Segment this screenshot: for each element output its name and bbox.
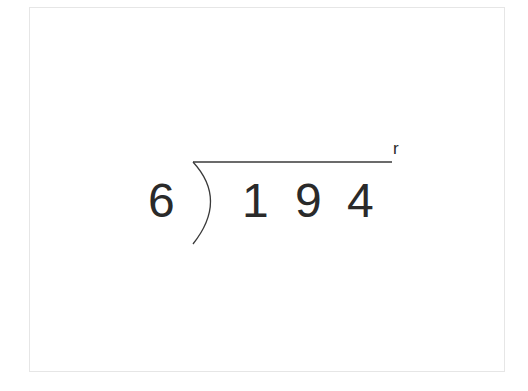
divisor: 6	[148, 177, 175, 225]
dividend-digit-2: 9	[295, 177, 322, 225]
dividend-digit-3: 4	[347, 177, 374, 225]
dividend-digit-1: 1	[242, 177, 269, 225]
remainder-label: r	[393, 140, 399, 157]
